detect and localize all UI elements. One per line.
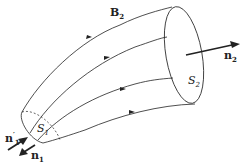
field-arrow-1 [86, 35, 92, 39]
label-s2: S2 [188, 75, 200, 89]
tube-outline-bottom [43, 104, 195, 143]
label-s1: S1 [37, 123, 49, 137]
label-n1-prime: n′1 [5, 131, 20, 146]
flux-tube-diagram [0, 0, 244, 163]
label-n2: n2 [224, 50, 237, 63]
tube-outline-top [22, 7, 172, 112]
n1-arrow-head [19, 148, 28, 156]
s2-surface [158, 4, 210, 107]
n2-arrow-head [230, 41, 240, 48]
label-b2: B2 [110, 7, 124, 20]
field-line-1 [30, 37, 167, 133]
label-n1: n1 [31, 150, 44, 163]
